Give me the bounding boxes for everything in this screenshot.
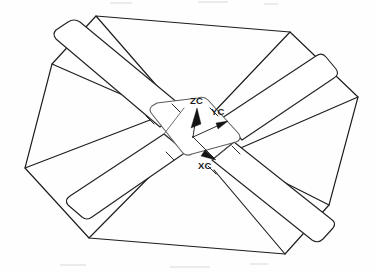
beam-lower-left [66,134,186,219]
axis-label-yc: YC [211,106,225,117]
beam-lower-right [212,142,335,242]
beam-upper-right [222,54,338,140]
axis-label-zc: ZC [190,95,203,106]
triad-origin [192,136,194,138]
axis-label-xc: XC [198,160,212,171]
frame-drawing: ZC YC XC [0,0,377,272]
diagram-canvas: ZC YC XC [0,0,377,272]
